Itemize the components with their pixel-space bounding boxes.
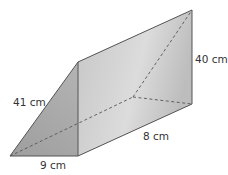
base-label: 9 cm (40, 160, 66, 171)
length-label: 8 cm (143, 131, 169, 142)
hypotenuse-label: 41 cm (13, 97, 46, 108)
vertical-face (78, 10, 192, 156)
height-label: 40 cm (195, 54, 228, 65)
prism-diagram (0, 0, 228, 175)
